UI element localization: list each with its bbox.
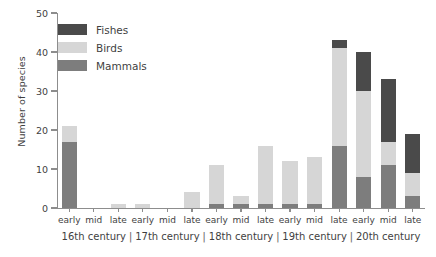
x-axis-tick-label: late [331,215,348,225]
x-axis-group-separator: | [129,230,133,243]
legend-item[interactable]: Fishes [58,22,147,38]
x-axis-tick-label: mid [380,215,397,225]
x-axis-tick-mark [363,208,364,212]
legend-item[interactable]: Mammals [58,58,147,74]
x-axis-tick-mark [289,208,290,212]
x-axis-tick-mark [339,208,340,212]
x-axis-group-label: 17th century [135,231,199,242]
x-axis-tick-label: mid [306,215,323,225]
legend-label: Mammals [96,60,147,72]
bar-segment-birds[interactable] [307,157,322,204]
legend-swatch-birds [58,42,87,53]
x-axis-group-separator: | [276,230,280,243]
bar-stack[interactable] [184,192,199,208]
x-axis-tick-mark [412,208,413,212]
bar-stack[interactable] [332,40,347,208]
bar-segment-birds[interactable] [184,192,199,208]
x-axis-tick-mark [118,208,119,212]
x-axis-tick-label: late [110,215,127,225]
bar-segment-mammals[interactable] [62,142,77,208]
x-axis-tick-mark [93,208,94,212]
y-axis-tick-label: 30 [36,86,48,97]
x-axis-group-label: 19th century [282,231,346,242]
x-axis-group-label: 18th century [209,231,273,242]
y-axis-label: Number of species [16,37,27,167]
y-axis-tick-label: 0 [42,203,48,214]
x-axis-tick-label: mid [233,215,250,225]
x-axis-tick-mark [167,208,168,212]
x-axis-tick-label: early [132,215,155,225]
x-axis-tick-mark [240,208,241,212]
y-axis-tick-label: 40 [36,47,48,58]
x-axis-tick-mark [69,208,70,212]
x-axis-tick-label: early [58,215,81,225]
x-axis-group-label: 16th century [62,231,126,242]
bar-stack[interactable] [405,134,420,208]
bar-segment-fishes[interactable] [332,40,347,48]
legend-item[interactable]: Birds [58,40,147,56]
bar-segment-birds[interactable] [62,126,77,142]
bar-segment-birds[interactable] [356,91,371,177]
y-axis-tick-label: 20 [36,125,48,136]
bar-segment-birds[interactable] [209,165,224,204]
bar-segment-fishes[interactable] [405,134,420,173]
y-axis-tick-label: 10 [36,164,48,175]
bar-segment-mammals[interactable] [381,165,396,208]
x-axis-tick-label: late [404,215,421,225]
bar-segment-birds[interactable] [282,161,297,204]
x-axis-group-separator: | [202,230,206,243]
bar-stack[interactable] [233,196,248,208]
x-axis-tick-label: early [352,215,375,225]
x-axis-group-separator: | [350,230,354,243]
bar-segment-birds[interactable] [405,173,420,196]
species-extinction-stacked-bar-chart: Number of species 01020304050 earlymidla… [0,0,436,257]
x-axis-tick-mark [388,208,389,212]
bar-segment-mammals[interactable] [405,196,420,208]
x-axis-tick-label: late [183,215,200,225]
bar-segment-birds[interactable] [258,146,273,205]
x-axis-tick-label: mid [85,215,102,225]
x-axis-tick-mark [314,208,315,212]
bar-segment-birds[interactable] [381,142,396,165]
bar-segment-mammals[interactable] [332,146,347,208]
x-axis-tick-mark [265,208,266,212]
x-axis-tick-label: late [257,215,274,225]
legend-label: Birds [96,42,122,54]
bar-stack[interactable] [356,52,371,208]
bar-stack[interactable] [307,157,322,208]
x-axis-group-label: 20th century [356,231,420,242]
bar-segment-birds[interactable] [332,48,347,146]
bar-segment-mammals[interactable] [356,177,371,208]
legend-swatch-mammals [58,60,87,71]
legend-label: Fishes [96,24,128,36]
bar-segment-birds[interactable] [233,196,248,204]
x-axis-tick-label: mid [159,215,176,225]
x-axis-tick-mark [191,208,192,212]
bar-segment-fishes[interactable] [356,52,371,91]
y-axis-tick-label: 50 [36,8,48,19]
x-axis-tick-label: early [279,215,302,225]
legend-swatch-fishes [58,24,87,35]
bar-stack[interactable] [62,126,77,208]
x-axis-tick-label: early [205,215,228,225]
bar-stack[interactable] [209,165,224,208]
x-axis-tick-mark [142,208,143,212]
chart-legend: FishesBirdsMammals [58,22,147,76]
bar-stack[interactable] [381,79,396,208]
bar-segment-fishes[interactable] [381,79,396,141]
bar-stack[interactable] [282,161,297,208]
bar-stack[interactable] [258,146,273,208]
x-axis-tick-mark [216,208,217,212]
